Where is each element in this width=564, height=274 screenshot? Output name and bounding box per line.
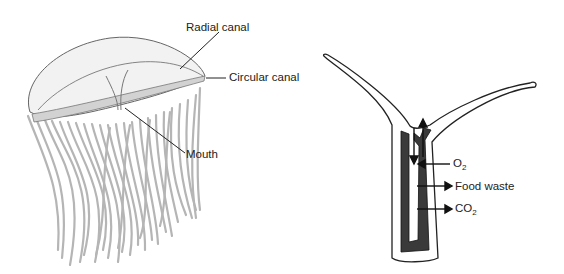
- radial-canal-label: Radial canal: [186, 22, 249, 34]
- mouth-label: Mouth: [186, 149, 218, 161]
- o2-subscript: 2: [462, 163, 466, 172]
- bell: [28, 37, 205, 117]
- radial-canal-leader: [180, 32, 219, 69]
- o2-text: O: [453, 157, 462, 169]
- body-outline: [324, 54, 536, 262]
- circular-canal-label: Circular canal: [229, 72, 299, 84]
- o2-label: O2: [453, 158, 466, 170]
- co2-subscript: 2: [472, 208, 476, 217]
- hydra-illustration: [324, 54, 536, 262]
- co2-text: CO: [455, 202, 472, 214]
- co2-label: CO2: [455, 203, 477, 215]
- diagram-canvas: [0, 0, 564, 274]
- food-waste-label: Food waste: [455, 181, 514, 193]
